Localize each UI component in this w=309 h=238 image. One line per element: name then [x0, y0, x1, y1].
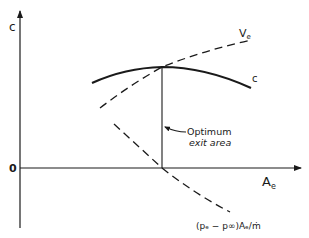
pressure-term-label: (pₑ − p∞)Aₑ/ṁ	[196, 221, 261, 231]
y-axis-label: c	[9, 20, 16, 34]
x-axis-label: Ae	[262, 174, 276, 191]
annotation-line-2: exit area	[189, 137, 231, 148]
ve-curve	[100, 40, 252, 108]
c-curve	[92, 67, 251, 88]
ve-curve-label: Ve	[239, 27, 251, 41]
annotation-line-1: Optimum	[187, 126, 231, 137]
x-axis-label-main: A	[262, 174, 271, 189]
origin-label: 0	[9, 162, 17, 175]
c-curve-label: c	[252, 73, 258, 84]
diagram-canvas: c 0 Ae c Ve Optimum exit area (pₑ − p∞)A…	[0, 0, 309, 238]
ve-label-sub: e	[247, 33, 251, 41]
x-axis-label-sub: e	[271, 182, 276, 191]
annotation-arrow	[165, 127, 186, 132]
